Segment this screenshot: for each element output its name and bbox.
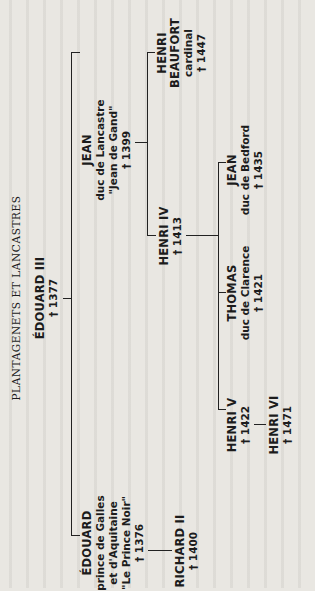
node-richard-ii: RICHARD II † 1400 xyxy=(174,514,200,587)
connector xyxy=(186,235,218,236)
node-death: † 1376 xyxy=(133,495,146,590)
node-death: † 1413 xyxy=(171,206,184,265)
node-name: ÉDOUARD III xyxy=(34,257,47,340)
node-henri-v: HENRI V † 1422 xyxy=(226,398,252,453)
node-edouard-iii: ÉDOUARD III † 1377 xyxy=(34,257,60,340)
connector xyxy=(218,162,219,410)
node-name: HENRI IV xyxy=(158,206,171,265)
node-henri-vi: HENRI VI † 1471 xyxy=(268,395,294,454)
node-death: † 1400 xyxy=(187,514,200,587)
connector xyxy=(147,235,156,236)
node-title: et d'Aquitaine xyxy=(107,495,120,590)
node-title: duc de Lancastre xyxy=(94,99,107,200)
node-name: THOMAS xyxy=(226,246,239,341)
connector xyxy=(71,52,80,53)
node-death: † 1399 xyxy=(120,99,133,200)
diagram-title: PLANTAGENETS ET LANCASTRES xyxy=(10,195,22,400)
connector xyxy=(148,550,172,551)
node-death: † 1421 xyxy=(252,246,265,341)
node-nickname: "Le Prince Noir" xyxy=(120,495,133,590)
node-title: duc de Bedford xyxy=(239,125,252,215)
node-name: RICHARD II xyxy=(174,514,187,587)
node-death: † 1377 xyxy=(47,257,60,340)
node-henri-iv: HENRI IV † 1413 xyxy=(158,206,184,265)
connector xyxy=(71,52,72,536)
node-title: cardinal xyxy=(182,18,195,88)
node-name: BEAUFORT xyxy=(169,18,182,88)
node-death: † 1447 xyxy=(195,18,208,88)
connector xyxy=(63,298,71,299)
connector xyxy=(147,52,148,236)
node-jean-de-gand: JEAN duc de Lancastre "Jean de Gand" † 1… xyxy=(81,99,133,200)
node-nickname: "Jean de Gand" xyxy=(107,99,120,200)
node-thomas: THOMAS duc de Clarence † 1421 xyxy=(226,246,265,341)
node-jean-de-bedford: JEAN duc de Bedford † 1435 xyxy=(226,125,265,215)
connector xyxy=(135,142,147,143)
node-prince-noir: ÉDOUARD prince de Galles et d'Aquitaine … xyxy=(81,495,146,590)
connector xyxy=(71,535,80,536)
node-death: † 1471 xyxy=(281,395,294,454)
node-name: HENRI VI xyxy=(268,395,281,454)
connector xyxy=(254,424,266,425)
node-henri-beaufort: HENRI BEAUFORT cardinal † 1447 xyxy=(156,18,208,88)
node-title: duc de Clarence xyxy=(239,246,252,341)
connector xyxy=(147,52,155,53)
node-death: † 1435 xyxy=(252,125,265,215)
node-title: prince de Galles xyxy=(94,495,107,590)
node-death: † 1422 xyxy=(239,398,252,453)
node-name: HENRI V xyxy=(226,398,239,453)
node-name: ÉDOUARD xyxy=(81,495,94,590)
node-name: JEAN xyxy=(226,125,239,215)
node-name: JEAN xyxy=(81,99,94,200)
